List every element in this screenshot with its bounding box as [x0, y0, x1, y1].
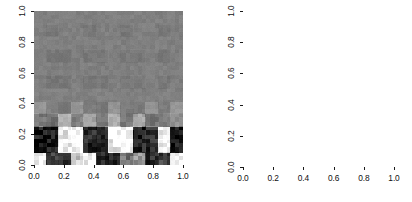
y-tick-label: 0.0: [12, 159, 32, 171]
y-tick-label: 0.2: [12, 128, 32, 140]
x-tick-label: 0.2: [58, 171, 69, 181]
y-tick-label: 0.8: [12, 36, 32, 48]
y-tick-label: 0.4: [221, 99, 241, 111]
x-tick-mark: [34, 165, 35, 168]
x-tick-label: 0.6: [118, 171, 129, 181]
x-tick-mark: [183, 165, 184, 168]
heatmap-canvas: [34, 11, 183, 165]
x-tick-label: 0.4: [298, 173, 309, 183]
left-panel-grayscale-image: 0.00.20.40.60.81.00.00.20.40.60.81.0: [0, 0, 206, 202]
y-tick-label: 0.6: [12, 67, 32, 79]
y-tick-label: 0.2: [221, 130, 241, 142]
y-tick-label: 1.0: [12, 5, 32, 17]
x-tick-label: 1.0: [388, 173, 399, 183]
right-panel-contour: 000000000000000 0.00.20.40.60.81.00.00.2…: [206, 0, 412, 202]
y-tick-label: 1.0: [221, 5, 241, 17]
x-tick-mark: [394, 167, 395, 170]
heatmap-plot-area: [34, 11, 183, 165]
x-tick-label: 0.4: [88, 171, 99, 181]
x-tick-mark: [64, 165, 65, 168]
x-tick-mark: [303, 167, 304, 170]
x-tick-mark: [364, 167, 365, 170]
x-tick-mark: [123, 165, 124, 168]
x-tick-label: 0.6: [328, 173, 339, 183]
x-tick-mark: [334, 167, 335, 170]
y-tick-label: 0.8: [221, 36, 241, 48]
x-tick-label: 0.8: [358, 173, 369, 183]
y-tick-label: 0.4: [12, 97, 32, 109]
x-tick-mark: [243, 167, 244, 170]
x-tick-mark: [273, 167, 274, 170]
x-tick-label: 0.0: [237, 173, 248, 183]
x-tick-label: 1.0: [177, 171, 188, 181]
x-tick-mark: [94, 165, 95, 168]
x-tick-label: 0.2: [268, 173, 279, 183]
x-tick-label: 0.8: [148, 171, 159, 181]
x-tick-label: 0.0: [28, 171, 39, 181]
x-tick-mark: [153, 165, 154, 168]
y-tick-label: 0.0: [221, 161, 241, 173]
figure-root: 0.00.20.40.60.81.00.00.20.40.60.81.0 000…: [0, 0, 412, 202]
y-tick-label: 0.6: [221, 67, 241, 79]
